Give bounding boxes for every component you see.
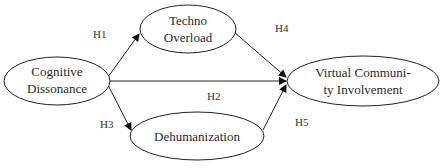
node-label: ty Involvement: [323, 82, 402, 97]
node-label: Virtual Communi-: [315, 65, 411, 80]
edge-h4: [234, 32, 286, 77]
node-label: Overload: [164, 30, 213, 45]
node-techno-overload: Techno Overload: [140, 5, 236, 53]
edge-label-h2: H2: [207, 90, 220, 102]
edge-label-h4: H4: [275, 22, 289, 34]
node-cognitive-dissonance: Cognitive Dissonance: [4, 57, 110, 105]
node-label: Dissonance: [27, 81, 87, 96]
node-label: Techno: [169, 13, 207, 28]
node-label: Dehumanization: [154, 129, 240, 144]
node-dehumanization: Dehumanization: [130, 112, 264, 160]
path-diagram: Cognitive Dissonance Techno Overload Deh…: [0, 0, 444, 168]
edge-label-h3: H3: [100, 118, 114, 130]
node-label: Cognitive: [31, 64, 83, 79]
node-virtual-community-involvement: Virtual Communi- ty Involvement: [287, 56, 439, 106]
edge-h1: [108, 34, 139, 77]
edge-h5: [263, 85, 286, 130]
edge-label-h5: H5: [295, 116, 309, 128]
edge-label-h1: H1: [93, 28, 106, 40]
